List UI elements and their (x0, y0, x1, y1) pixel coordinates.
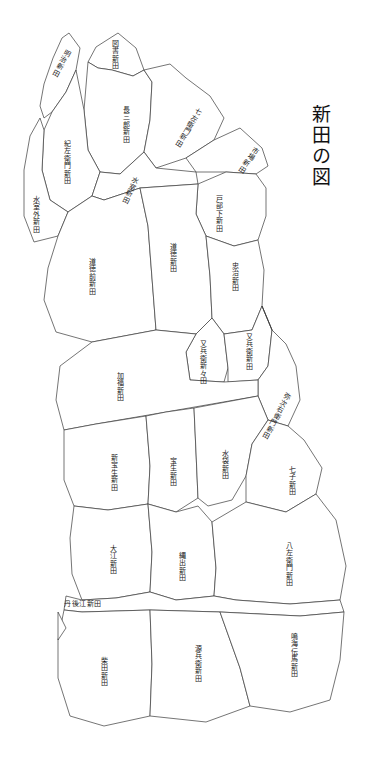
region-label-r24[interactable]: 丹後江新田 (64, 601, 102, 608)
region-shape-r23[interactable] (212, 494, 346, 604)
region-label-r11[interactable]: 道徳新田 (169, 243, 176, 273)
region-label-r14[interactable]: 又兵衛新田 (245, 333, 252, 370)
map-canvas: 新田の図 明治新田図書新田長三郎新田七左衛門新田市場新田紀左衛門新田水室外新田水… (0, 0, 382, 759)
region-label-r10[interactable]: 道徳前新田 (88, 258, 95, 295)
region-label-r06[interactable]: 紀左衛門新田 (63, 140, 70, 184)
region-label-r25[interactable]: 柴田新田 (100, 657, 107, 687)
region-label-r21[interactable]: 大江新田 (109, 545, 116, 575)
region-label-r02[interactable]: 図書新田 (111, 40, 118, 70)
region-label-r22[interactable]: 縄出新田 (178, 552, 185, 582)
region-label-r03[interactable]: 長三郎新田 (122, 106, 129, 143)
region-label-r09[interactable]: 戸部下新田 (215, 195, 222, 232)
map-title: 新田の図 (308, 104, 331, 188)
region-label-r13[interactable]: 又兵衛新々田 (199, 340, 206, 384)
region-label-r07[interactable]: 水室外新田 (32, 196, 39, 233)
region-label-r19[interactable]: 水袋新田 (221, 450, 228, 480)
region-label-r12[interactable]: 忠治新田 (231, 262, 238, 292)
region-label-r16[interactable]: 加福新田 (116, 372, 123, 402)
region-label-r20[interactable]: 七子新田 (288, 466, 295, 496)
region-label-r26[interactable]: 源兵衛新田 (194, 645, 201, 682)
region-label-r18[interactable]: 宝生新田 (169, 457, 176, 487)
region-label-r17[interactable]: 新宝生新田 (110, 454, 117, 491)
region-label-r23[interactable]: 八左衛門新田 (285, 542, 292, 586)
region-label-r27[interactable]: 鳴海伝馬新田 (290, 633, 297, 677)
region-shape-r17[interactable] (64, 416, 150, 510)
region-shape-r09[interactable] (196, 172, 266, 246)
